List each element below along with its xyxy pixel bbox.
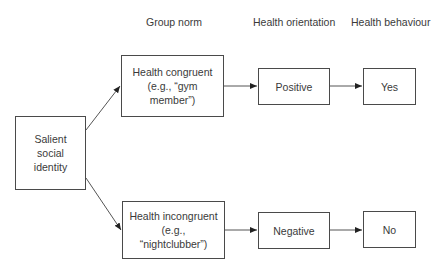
- node-label: Positive: [276, 80, 313, 94]
- node-text-line: “nightclubber”): [129, 237, 217, 251]
- node-label: Yes: [381, 80, 398, 94]
- node-text-line: social: [34, 146, 67, 160]
- node-text-line: identity: [34, 160, 67, 174]
- node-label: Negative: [273, 224, 314, 238]
- node-text-line: member”): [133, 93, 213, 107]
- node-text-line: Health congruent: [133, 65, 213, 79]
- node-salient-social-identity: Salient social identity: [15, 116, 86, 190]
- node-text-line: (e.g.,: [129, 223, 217, 237]
- node-text-line: (e.g., “gym: [133, 79, 213, 93]
- node-negative: Negative: [258, 212, 330, 249]
- arrow-salient-to-incongruent: [86, 178, 121, 230]
- node-text-line: Health incongruent: [129, 209, 217, 223]
- node-text-line: Salient: [34, 132, 67, 146]
- node-positive: Positive: [258, 68, 330, 105]
- node-health-congruent: Health congruent (e.g., “gym member”): [121, 55, 224, 117]
- node-health-incongruent: Health incongruent (e.g., “nightclubber”…: [122, 201, 225, 259]
- node-label: No: [383, 223, 396, 237]
- arrow-salient-to-congruent: [86, 86, 120, 130]
- node-yes: Yes: [363, 68, 416, 105]
- node-no: No: [363, 211, 416, 248]
